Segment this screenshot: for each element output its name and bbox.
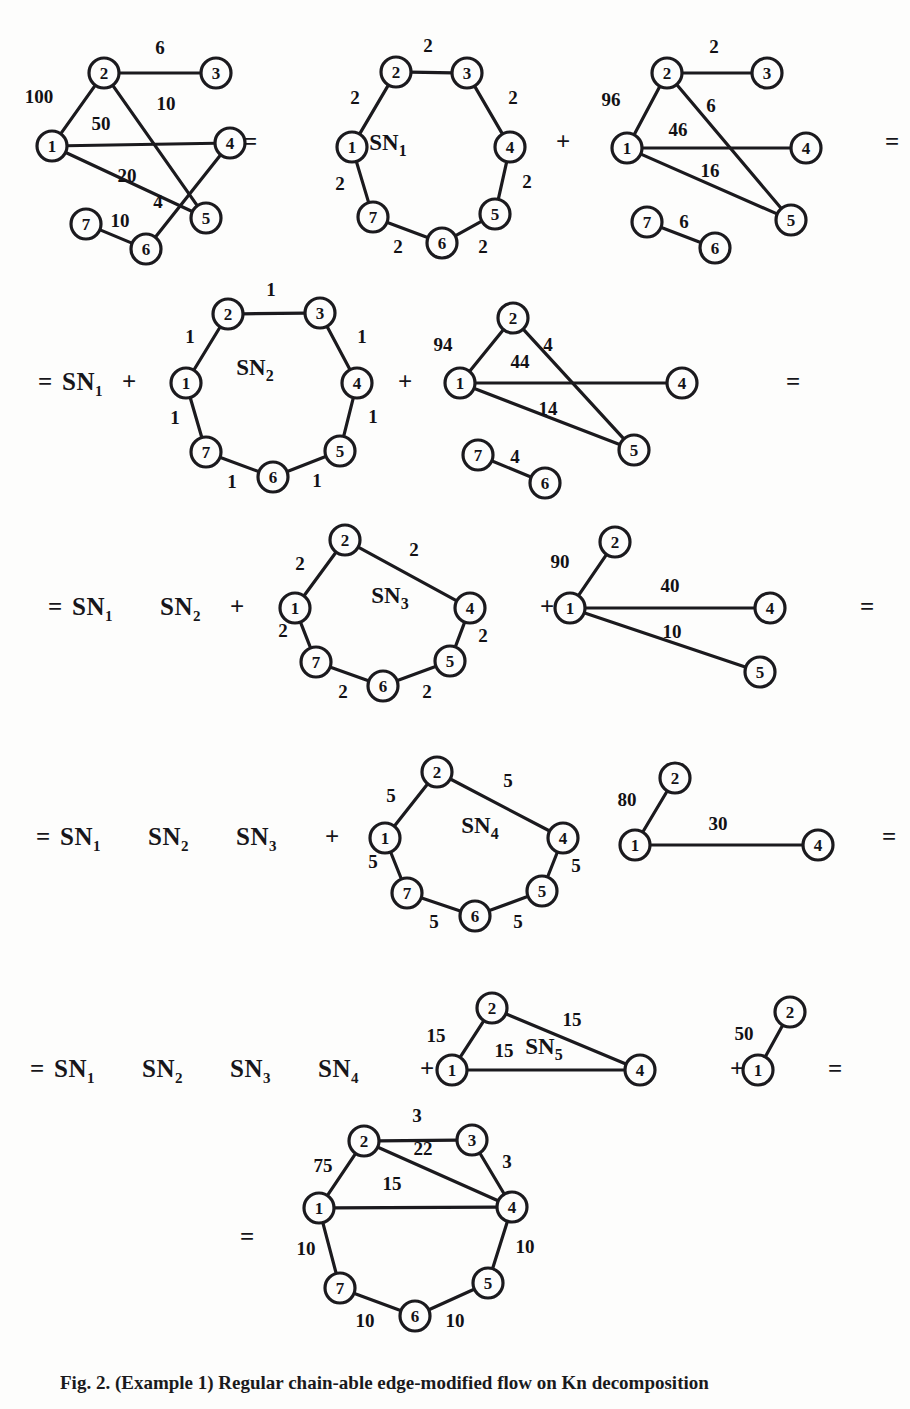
edge-weight-label: 5: [513, 911, 523, 932]
edge-weight-label: 6: [679, 211, 689, 232]
edge-weight-label: 2: [522, 171, 532, 192]
plus-row3-b: +: [540, 594, 555, 619]
graph-edge: [454, 221, 482, 237]
graph-node-label: 6: [142, 240, 151, 259]
term-row4-sn2-subscript: 2: [181, 838, 189, 854]
edge-weight-label: 5: [368, 851, 378, 872]
graph-node-label: 5: [446, 652, 455, 671]
figure-canvas: 610010502041023147652222222SN12314765296…: [0, 0, 910, 1409]
edge-weight-label: 50: [92, 113, 111, 134]
eq-row6: =: [240, 1224, 255, 1249]
eq-row5: =: [30, 1056, 45, 1081]
edge-weight-label: 1: [170, 407, 180, 428]
edge-weight-label: 2: [350, 87, 360, 108]
term-row5-sn2: SN2: [142, 1056, 183, 1086]
term-row5-sn1-subscript: 1: [87, 1070, 95, 1086]
term-row5-sn4: SN4: [318, 1056, 359, 1086]
graph-node-label: 5: [484, 1274, 493, 1293]
graph-node-label: 6: [711, 239, 720, 258]
graph-node-label: 5: [491, 205, 500, 224]
edge-weight-label: 10: [356, 1310, 375, 1331]
graph-edge: [327, 325, 351, 370]
edge-weight-label: 14: [539, 398, 559, 419]
edge-weight-label: 20: [118, 165, 137, 186]
graph-node-label: 1: [623, 139, 632, 158]
graph-node-label: 2: [671, 769, 680, 788]
edge-weight-label: 5: [386, 785, 396, 806]
graph-edge: [356, 160, 369, 203]
edge-weight-label: 40: [661, 575, 680, 596]
graph-edge: [765, 1024, 783, 1057]
graph-node-label: 4: [766, 599, 775, 618]
graph-node-label: 2: [488, 999, 497, 1018]
term-row4-sn3-subscript: 3: [269, 838, 277, 854]
term-row4-sn2: SN2: [148, 824, 189, 854]
eq-row2: =: [38, 369, 53, 394]
term-row2-sn1: SN1: [62, 369, 103, 399]
graph-node-label: 2: [341, 531, 350, 550]
graph-node-label: 1: [315, 1199, 324, 1218]
graph-node-label: 7: [474, 446, 483, 465]
graph-node-label: 1: [381, 829, 390, 848]
subgraph-name-label: SN5: [525, 1034, 562, 1063]
edge-weight-label: 16: [701, 160, 720, 181]
graph-node-label: 5: [538, 882, 547, 901]
plus-row2-a: +: [122, 369, 137, 394]
edge-weight-label: 96: [602, 89, 621, 110]
graph-node-label: 5: [787, 211, 796, 230]
graph-edge: [323, 1222, 337, 1275]
graph-edge: [455, 621, 465, 648]
graph-node-label: 2: [360, 1132, 369, 1151]
eq-row5-b: =: [828, 1056, 843, 1081]
graph-node-label: 6: [379, 677, 388, 696]
graph-node-label: 1: [566, 599, 575, 618]
term-row3-sn1-subscript: 1: [105, 608, 113, 624]
graph-edge: [303, 551, 336, 596]
graph-edge: [333, 1207, 498, 1208]
figure-caption: Fig. 2. (Example 1) Regular chain-able e…: [60, 1372, 860, 1394]
eq-row3-b: =: [860, 594, 875, 619]
graph-edge: [394, 783, 429, 827]
graph-node-label: 7: [403, 884, 412, 903]
residual-graph-1: 2966461662314765: [602, 36, 822, 263]
graph-node-label: 1: [448, 1061, 457, 1080]
graph-node-label: 2: [433, 763, 442, 782]
edge-weight-label: 2: [478, 236, 488, 257]
graph-edge: [428, 1289, 475, 1310]
graph-node-label: 5: [202, 209, 211, 228]
edge-weight-label: 10: [157, 93, 176, 114]
graph-edge: [66, 143, 216, 146]
graph-edge: [300, 621, 311, 649]
edge-weight-label: 10: [663, 621, 682, 642]
graph-node-label: 4: [506, 138, 515, 157]
graph-node-label: 3: [763, 64, 772, 83]
plus-row5-b: +: [730, 1056, 745, 1081]
graph-node-label: 6: [438, 234, 447, 253]
graph-node-label: 3: [212, 64, 221, 83]
edge-weight-label: 50: [735, 1023, 754, 1044]
graph-edge: [634, 85, 661, 135]
graph-node-label: 7: [82, 215, 91, 234]
graph-node-label: 2: [663, 64, 672, 83]
edge-weight-label: 3: [502, 1151, 512, 1172]
edge-weight-label: 46: [669, 119, 688, 140]
eq-row3: =: [48, 594, 63, 619]
edge-weight-label: 80: [618, 789, 637, 810]
eq-row4-b: =: [882, 824, 897, 849]
edge-weight-label: 2: [278, 620, 288, 641]
sn1-cycle-graph: 2222222SN12314765: [335, 35, 532, 258]
graph-node-label: 6: [411, 1307, 420, 1326]
eq-row4: =: [36, 824, 51, 849]
graph-node-label: 3: [463, 64, 472, 83]
term-row5-sn1: SN1: [54, 1056, 95, 1086]
term-row5-sn2-subscript: 2: [175, 1070, 183, 1086]
term-row5-sn3-subscript: 3: [263, 1070, 271, 1086]
graph-node-label: 1: [631, 836, 640, 855]
graph-node-label: 4: [559, 829, 568, 848]
graph-edge: [642, 790, 668, 833]
graph-node-label: 4: [226, 134, 235, 153]
edge-weight-label: 5: [571, 855, 581, 876]
graph-node-label: 2: [611, 533, 620, 552]
edge-weight-label: 44: [511, 351, 531, 372]
graph-node-label: 4: [508, 1198, 517, 1217]
